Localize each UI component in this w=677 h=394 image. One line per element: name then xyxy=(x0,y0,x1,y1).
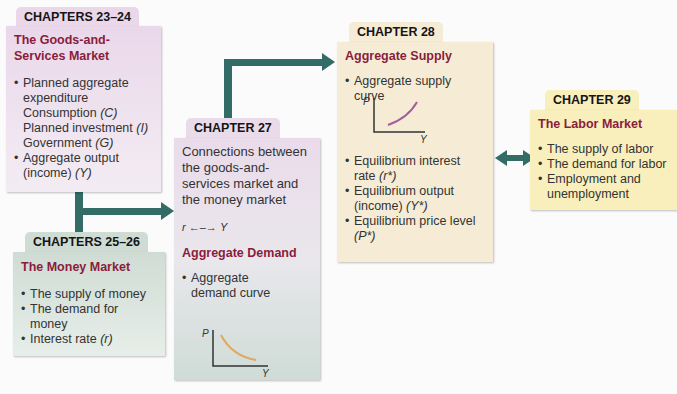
connector-double-ch28-ch29 xyxy=(506,155,524,161)
symbol-i: (I) xyxy=(136,121,148,135)
item-aggregate-demand-curve: Aggregate demand curve xyxy=(182,271,291,301)
connector-vertical-ch27-up xyxy=(224,62,232,119)
heading-aggregate-demand: Aggregate Demand xyxy=(182,245,312,261)
tab-chapter-29: CHAPTER 29 xyxy=(545,90,639,110)
symbol-r: (r) xyxy=(100,332,113,346)
sub-government: Government (G) xyxy=(23,136,153,151)
item-interest-rate: Interest rate (r) xyxy=(21,332,157,347)
item-supply-of-labor: The supply of labor xyxy=(538,142,669,157)
tab-chapters-23-24: CHAPTERS 23–24 xyxy=(16,7,139,27)
demand-curve-icon xyxy=(212,330,274,370)
item-equilibrium-price-level: Equilibrium price level (P*) xyxy=(345,214,485,244)
item-planned-aggregate-expenditure: Planned aggregate expenditure Consumptio… xyxy=(14,76,153,151)
box-chapter-27: Connections between the goods-and-servic… xyxy=(174,138,320,380)
double-dashed-arrow-icon: ←–→ xyxy=(189,221,217,233)
symbol-y: (Y) xyxy=(75,166,92,180)
tab-chapter-27: CHAPTER 27 xyxy=(186,118,280,138)
symbol-g: (G) xyxy=(95,136,113,150)
item-text: Aggregate output (income) xyxy=(23,151,119,180)
symbol-p-star: (P*) xyxy=(354,229,376,243)
axis-label-p: P xyxy=(202,328,209,339)
heading-labor-market: The Labor Market xyxy=(538,116,669,132)
item-text: Government xyxy=(23,136,95,150)
symbol-r: r xyxy=(182,221,186,233)
intro-text: Connections between the goods-and-servic… xyxy=(182,144,312,208)
box-money-market: The Money Market The supply of money The… xyxy=(13,252,165,356)
symbol-y-star: (Y*) xyxy=(406,199,428,213)
double-arrow-left-icon xyxy=(495,150,507,166)
item-text: Planned aggregate expenditure xyxy=(23,76,129,105)
tab-chapter-28: CHAPTER 28 xyxy=(349,22,443,42)
sub-planned-investment: Planned investment (I) xyxy=(23,121,153,136)
item-supply-of-money: The supply of money xyxy=(21,287,157,302)
heading-goods-market: The Goods-and-Services Market xyxy=(14,32,153,64)
item-text: Equilibrium interest rate xyxy=(354,154,460,183)
box-goods-and-services-market: The Goods-and-Services Market Planned ag… xyxy=(6,26,161,192)
sub-consumption: Consumption (C) xyxy=(23,106,153,121)
symbol-r-star: (r*) xyxy=(379,169,396,183)
connector-horizontal-to-ch27 xyxy=(79,208,163,215)
heading-money-market: The Money Market xyxy=(21,259,157,275)
axis-label-p: P xyxy=(363,96,370,107)
item-text: Planned investment xyxy=(23,121,136,135)
item-demand-for-labor: The demand for labor xyxy=(538,157,669,172)
relation-r-y: r ←–→ Y xyxy=(182,220,312,235)
supply-curve-icon xyxy=(373,98,435,138)
heading-aggregate-supply: Aggregate Supply xyxy=(345,48,485,64)
item-demand-for-money: The demand for money xyxy=(21,302,157,332)
box-aggregate-supply: Aggregate Supply Aggregate supply curve … xyxy=(337,42,493,262)
tab-chapters-25-26: CHAPTERS 25–26 xyxy=(25,232,148,252)
item-text: Consumption xyxy=(23,106,100,120)
arrow-to-ch28-icon xyxy=(322,53,335,71)
item-equilibrium-output: Equilibrium output (income) (Y*) xyxy=(345,184,485,214)
item-equilibrium-interest-rate: Equilibrium interest rate (r*) xyxy=(345,154,485,184)
arrow-to-ch27-icon xyxy=(161,202,174,220)
symbol-y: Y xyxy=(220,221,227,233)
ad-curve-graph: P Y xyxy=(212,330,274,376)
box-labor-market: The Labor Market The supply of labor The… xyxy=(530,110,677,210)
connector-horizontal-to-ch28 xyxy=(224,59,324,66)
item-text: Interest rate xyxy=(30,332,100,346)
item-text: Equilibrium output (income) xyxy=(354,184,454,213)
item-text: Equilibrium price level xyxy=(354,214,476,228)
as-curve-graph: P Y xyxy=(373,98,435,148)
item-employment-unemployment: Employment and unemployment xyxy=(538,172,652,202)
symbol-c: (C) xyxy=(100,106,117,120)
item-aggregate-output: Aggregate output (income) (Y) xyxy=(14,151,153,181)
